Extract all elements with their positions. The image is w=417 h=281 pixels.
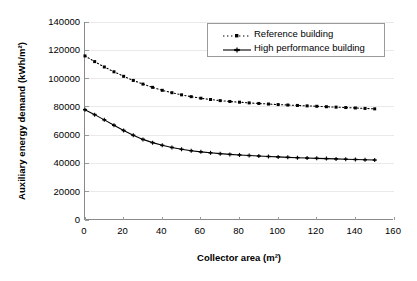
x-axis-title: Collector area (m²) xyxy=(84,252,394,263)
x-tick-label: 80 xyxy=(219,226,259,236)
y-axis-title: Auxiliary energy demand (kWh/m²) xyxy=(12,1,32,241)
x-tick-label: 60 xyxy=(180,226,220,236)
y-tick-label: 20000 xyxy=(26,187,80,197)
x-tick-label: 120 xyxy=(296,226,336,236)
x-axis-tick-marks xyxy=(85,217,394,221)
y-tick-label: 120000 xyxy=(26,45,80,55)
y-tick-label: 60000 xyxy=(26,130,80,140)
y-tick-label: 100000 xyxy=(26,74,80,84)
data-series-layer xyxy=(83,54,377,162)
y-tick-label: 40000 xyxy=(26,158,80,168)
y-tick-label: 80000 xyxy=(26,102,80,112)
series-reference-building xyxy=(84,54,377,110)
y-tick-label: 0 xyxy=(26,215,80,225)
x-tick-label: 160 xyxy=(373,226,413,236)
x-tick-label: 40 xyxy=(141,226,181,236)
legend-swatch-dotted-icon xyxy=(222,28,252,40)
y-tick-label: 140000 xyxy=(26,17,80,27)
x-tick-label: 0 xyxy=(64,226,104,236)
legend-item-high-performance-building: High performance building xyxy=(208,41,384,55)
x-tick-label: 20 xyxy=(103,226,143,236)
legend-swatch-solid-icon xyxy=(222,42,252,54)
legend-label-high-performance-building: High performance building xyxy=(252,42,365,54)
chart-figure: Auxiliary energy demand (kWh/m²) Collect… xyxy=(0,0,417,281)
x-tick-label: 140 xyxy=(334,226,374,236)
x-tick-label: 100 xyxy=(257,226,297,236)
chart-legend: Reference building High performance buil… xyxy=(207,23,385,57)
legend-label-reference-building: Reference building xyxy=(252,28,333,40)
legend-item-reference-building: Reference building xyxy=(208,27,384,41)
y-axis-tick-marks xyxy=(85,22,89,220)
